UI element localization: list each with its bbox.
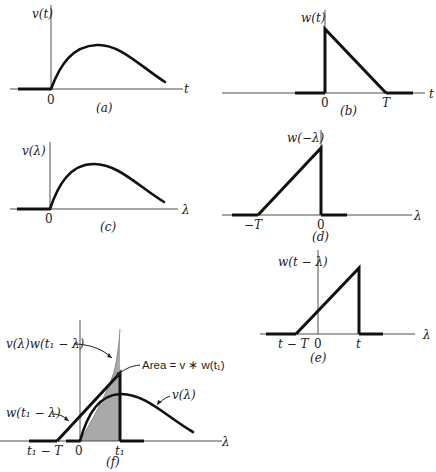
caption: (b) [340,104,357,118]
w-arrow-icon [64,416,69,421]
w-pulse [325,29,386,93]
t-minus-T-label: t − T [278,337,310,351]
y-label: v(t) [32,7,53,21]
panel-b: w(t) t 0 T (b) [222,10,434,118]
w-shifted-pulse [296,268,359,334]
origin-label: 0 [75,444,83,458]
origin-label: 0 [47,93,55,107]
t-label: t [356,337,361,351]
convolution-figure: v(t) t 0 (a) w(t) t 0 T (b) v(λ) λ 0 (c)… [0,0,436,472]
origin-label: 0 [321,96,329,110]
x-label: t [184,82,189,96]
x-label: λ [221,435,230,449]
origin-label: 0 [314,337,322,351]
product-label: v(λ)w(t₁ − λ) [6,337,85,351]
y-label: w(−λ) [287,131,325,145]
v-label: v(λ) [172,388,196,402]
caption: (e) [310,351,327,365]
x-label: λ [413,209,422,223]
y-label: w(t − λ) [278,255,328,269]
x-label: λ [181,203,190,217]
panel-d: w(−λ) λ −T 0 (d) [222,130,422,244]
area-label: Area = v ∗ w(t₁) [142,359,225,371]
minus-T-label: −T [244,218,263,232]
w-reversed-pulse [258,148,321,215]
caption: (c) [100,220,116,234]
panel-c: v(λ) λ 0 (c) [10,142,190,234]
T-label: T [382,96,391,110]
v-curve [50,164,164,209]
y-label: w(t) [301,11,326,25]
panel-a: v(t) t 0 (a) [10,5,189,115]
panel-e: w(t − λ) λ t − T 0 t (e) [260,250,431,365]
y-label: v(λ) [22,144,46,158]
origin-label: 0 [45,212,53,226]
panel-f: v(λ)w(t₁ − λ) Area = v ∗ w(t₁) v(λ) w(t₁… [0,320,230,469]
w-label: w(t₁ − λ) [6,406,61,420]
v-curve [51,45,165,89]
x-label: t [429,87,434,101]
caption: (d) [312,230,329,244]
caption: (a) [96,101,113,115]
x-label: λ [422,328,431,342]
caption: (f) [106,455,120,469]
t1-minus-T-label: t₁ − T [27,444,63,458]
